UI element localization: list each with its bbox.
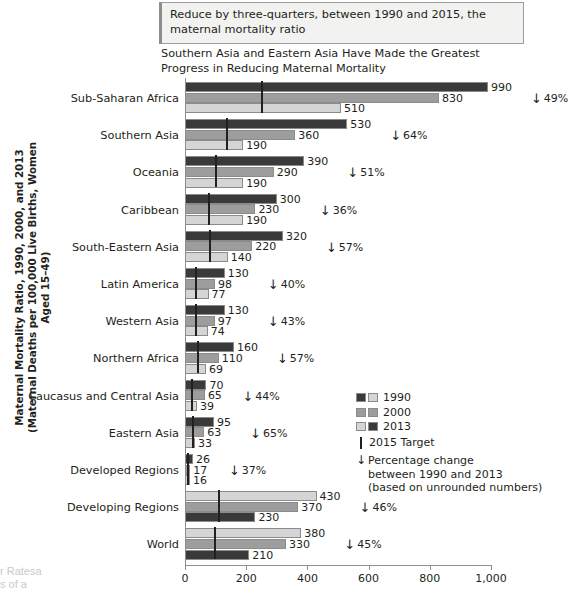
target-tick-icon: [360, 437, 362, 449]
x-axis-tick: [491, 565, 492, 570]
bar-wrapper: 130: [185, 268, 543, 278]
bar-wrapper: 230: [185, 204, 543, 214]
background-text-line2: s of a: [0, 578, 42, 591]
bar-value-label: 300: [280, 192, 301, 205]
bar-wrapper: 320: [185, 231, 543, 241]
bar-2013: [185, 528, 301, 538]
pct-change-value: 37%: [242, 464, 266, 477]
goal-text: Reduce by three-quarters, between 1990 a…: [170, 8, 517, 37]
target-marker: [195, 267, 197, 299]
x-axis-tick: [307, 565, 308, 570]
pct-change-value: 36%: [333, 203, 357, 216]
target-marker: [215, 155, 217, 187]
x-axis-tick-label: 1,000: [475, 572, 507, 585]
bar-value-label: 510: [344, 102, 365, 115]
category-label: Southern Asia: [100, 129, 179, 142]
chart-row: Sub-Saharan Africa990830510↓49%: [185, 82, 543, 114]
bar-value-label: 320: [286, 229, 307, 242]
bar-wrapper: 140: [185, 252, 543, 262]
down-arrow-icon: ↓: [356, 455, 365, 466]
x-axis-tick-label: 0: [182, 572, 189, 585]
background-text-line1: r Ratesa: [0, 565, 42, 578]
bar-value-label: 190: [246, 213, 267, 226]
bar-wrapper: 97: [185, 316, 543, 326]
bar-value-label: 77: [212, 288, 226, 301]
bar-wrapper: 210: [185, 550, 543, 560]
bar-wrapper: 300: [185, 194, 543, 204]
bar-2013: [185, 252, 228, 262]
bar-value-label: 290: [277, 165, 298, 178]
pct-change-annotation: ↓37%: [229, 464, 266, 477]
pct-change-value: 65%: [263, 426, 287, 439]
pct-change-value: 45%: [357, 538, 381, 551]
pct-change-annotation: ↓65%: [250, 426, 287, 439]
bar-value-label: 830: [442, 91, 463, 104]
swatch-medium-icon: [356, 408, 366, 417]
swatch-dark-2-icon: [368, 422, 378, 431]
bar-wrapper: 190: [185, 140, 543, 150]
bar-2013: [185, 364, 206, 374]
bar-1990: [185, 119, 347, 129]
pct-change-annotation: ↓43%: [268, 315, 305, 328]
swatch-dark-icon: [356, 393, 366, 402]
swatch-medium-2-icon: [368, 408, 378, 417]
bar-value-label: 220: [255, 240, 276, 253]
legend-item-target: 2015 Target: [356, 436, 542, 450]
legend-item-1990: 1990: [356, 391, 542, 405]
x-axis-tick-label: 400: [297, 572, 318, 585]
legend-label-1990: 1990: [383, 391, 411, 405]
bar-wrapper: 98: [185, 279, 543, 289]
pct-change-value: 64%: [403, 129, 427, 142]
bar-wrapper: 360: [185, 130, 543, 140]
bar-2000: [185, 502, 298, 512]
bar-2013: [185, 491, 317, 501]
legend-pct-line3: (based on unrounded numbers): [368, 481, 542, 494]
bar-wrapper: 390: [185, 156, 543, 166]
x-axis-tick-label: 800: [419, 572, 440, 585]
category-label: South-Eastern Asia: [72, 240, 179, 253]
pct-change-annotation: ↓45%: [344, 538, 381, 551]
pct-change-value: 51%: [360, 166, 384, 179]
bar-2000: [185, 130, 295, 140]
target-marker: [226, 118, 228, 150]
bar-value-label: 39: [200, 399, 214, 412]
pct-change-annotation: ↓36%: [320, 203, 357, 216]
pct-change-value: 57%: [290, 352, 314, 365]
pct-change-annotation: ↓40%: [268, 278, 305, 291]
chart-row: Caribbean300230190↓36%: [185, 194, 543, 226]
background-text: r Ratesa s of a: [0, 565, 42, 591]
category-label: Developed Regions: [70, 464, 179, 477]
chart-row: Oceania390290190↓51%: [185, 156, 543, 188]
target-marker: [261, 81, 263, 113]
bar-value-label: 230: [258, 511, 279, 524]
bar-value-label: 110: [222, 351, 243, 364]
bar-wrapper: 74: [185, 326, 543, 336]
category-label: Latin America: [101, 278, 179, 291]
chart-row: Developing Regions430370230↓46%: [185, 491, 543, 523]
legend-label-2013: 2013: [383, 420, 411, 434]
bar-value-label: 190: [246, 176, 267, 189]
bar-1990: [185, 550, 249, 560]
x-axis-tick-label: 200: [236, 572, 257, 585]
legend-pct-line2: between 1990 and 2013: [368, 468, 503, 481]
bar-value-label: 330: [289, 537, 310, 550]
target-marker: [187, 453, 189, 485]
bar-wrapper: 380: [185, 528, 543, 538]
bar-2013: [185, 103, 341, 113]
bar-2013: [185, 215, 243, 225]
bar-wrapper: 190: [185, 215, 543, 225]
pct-change-annotation: ↓46%: [360, 501, 397, 514]
target-marker: [208, 193, 210, 225]
bar-wrapper: 69: [185, 364, 543, 374]
pct-change-value: 44%: [255, 389, 279, 402]
pct-change-annotation: ↓44%: [242, 389, 279, 402]
chart-row: Western Asia1309774↓43%: [185, 305, 543, 337]
bar-value-label: 530: [350, 118, 371, 131]
pct-change-value: 57%: [339, 240, 363, 253]
swatch-light-2-icon: [356, 422, 366, 431]
target-marker: [218, 490, 220, 522]
pct-change-value: 49%: [544, 92, 568, 105]
bar-wrapper: 110: [185, 353, 543, 363]
target-marker: [197, 341, 199, 373]
category-label: Oceania: [133, 166, 179, 179]
